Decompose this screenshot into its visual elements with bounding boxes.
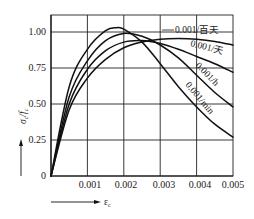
y-axis-arrowhead-icon	[19, 139, 23, 146]
curve-label-100days: 0.001/百天	[175, 25, 219, 35]
plot-frame	[51, 15, 233, 176]
y-tick-1.00: 1.00	[29, 26, 47, 37]
x-tick-0.001: 0.001	[79, 179, 102, 190]
x-tick-0.003: 0.003	[153, 179, 176, 190]
grid	[51, 15, 233, 176]
svg-text:σc/fc: σc/fc	[18, 108, 29, 124]
x-tick-0.004: 0.004	[189, 179, 212, 190]
y-tick-0: 0	[41, 170, 46, 181]
stress-strain-chart: 0 0.25 0.50 0.75 1.00 0.001 0.002 0.003 …	[0, 0, 254, 219]
x-axis-arrowhead-icon	[94, 200, 101, 204]
y-axis-label: σc/fc	[18, 108, 29, 124]
x-axis-label: εc	[104, 197, 111, 208]
y-tick-0.25: 0.25	[29, 134, 47, 145]
y-tick-0.50: 0.50	[29, 98, 47, 109]
x-tick-0.002: 0.002	[115, 179, 138, 190]
y-tick-0.75: 0.75	[29, 62, 47, 73]
x-tick-0.005: 0.005	[222, 179, 245, 190]
